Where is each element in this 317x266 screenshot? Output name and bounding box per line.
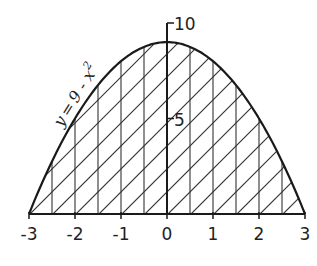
x-tick-label: 2 (254, 224, 265, 244)
y-tick-label: 5 (174, 110, 185, 130)
x-tick-label: 3 (300, 224, 311, 244)
hatch-diagonal-line (53, 34, 233, 214)
x-ticks: -3-2-10123 (21, 212, 311, 244)
parabola-chart: -3-2-10123 510 y=9 - x2 (0, 0, 317, 266)
hatch-diagonal-line (260, 34, 317, 214)
hatch-diagonal-line (7, 34, 187, 214)
hatch-diagonal-line (145, 34, 317, 214)
hatch-diagonal-line (0, 34, 49, 214)
hatch-diagonal-line (191, 34, 317, 214)
x-tick-label: -1 (113, 224, 130, 244)
x-tick-label: -3 (21, 224, 38, 244)
hatching (0, 34, 317, 214)
x-tick-label: 0 (162, 224, 173, 244)
y-ticks: 510 (167, 14, 196, 130)
y-tick-label: 10 (174, 14, 196, 34)
x-tick-label: -2 (67, 224, 84, 244)
x-tick-label: 1 (208, 224, 219, 244)
hatch-diagonal-line (306, 34, 317, 214)
hatch-diagonal-line (99, 34, 279, 214)
hatch-diagonal-line (283, 34, 317, 214)
hatch-diagonal-line (237, 34, 317, 214)
hatch-diagonal-line (0, 34, 26, 214)
hatch-diagonal-line (0, 34, 3, 214)
hatch-diagonal-line (214, 34, 317, 214)
